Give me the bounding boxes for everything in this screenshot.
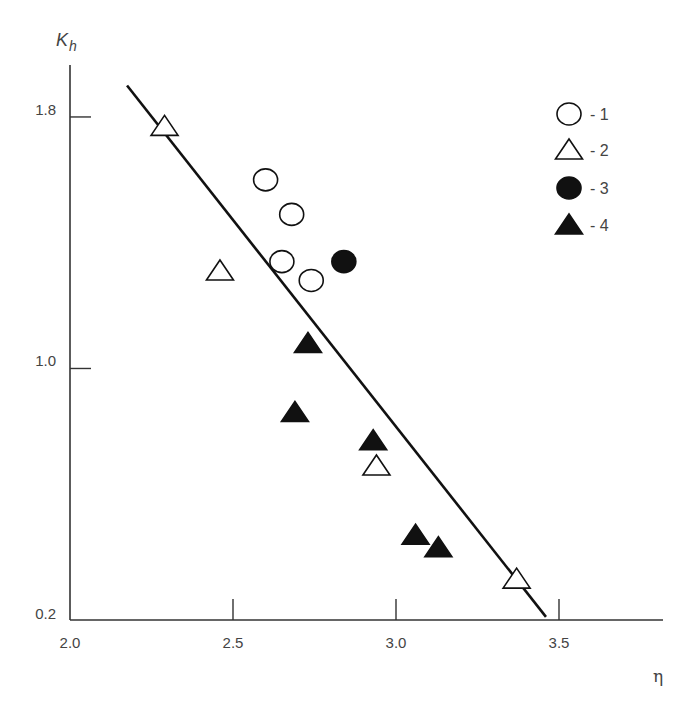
y-tick-label: 1.0 (35, 352, 56, 369)
regression-line (127, 86, 546, 617)
x-tick-label: 3.5 (549, 634, 570, 651)
legend-item-3: - 3 (557, 177, 609, 199)
open-circle-marker (254, 169, 278, 191)
open-circle-marker (280, 203, 304, 225)
series-4 (281, 332, 451, 556)
x-tick-label: 2.0 (60, 634, 81, 651)
legend-label: - 4 (590, 217, 609, 234)
x-tick-label: 2.5 (223, 634, 244, 651)
series-3 (332, 251, 356, 273)
open-triangle-marker (206, 260, 233, 280)
open-circle-marker (270, 251, 294, 273)
filled-triangle-marker (425, 537, 452, 557)
x-axis-title: η (653, 666, 663, 686)
legend-open-circle-icon (557, 103, 581, 125)
legend-open-triangle-icon (556, 139, 583, 159)
legend-label: - 2 (590, 142, 609, 159)
open-triangle-marker (503, 568, 530, 588)
legend-item-4: - 4 (556, 214, 609, 234)
filled-triangle-marker (360, 430, 387, 450)
y-axis-title: K h (56, 30, 77, 54)
legend: - 1- 2- 3- 4 (556, 103, 609, 234)
legend-item-1: - 1 (557, 103, 609, 125)
legend-item-2: - 2 (556, 139, 609, 159)
open-circle-marker (299, 269, 323, 291)
filled-triangle-marker (294, 332, 321, 352)
open-triangle-marker (363, 455, 390, 475)
legend-filled-triangle-icon (556, 214, 583, 234)
legend-label: - 3 (590, 180, 609, 197)
filled-circle-marker (332, 251, 356, 273)
legend-label: - 1 (590, 106, 609, 123)
series-1 (254, 169, 324, 292)
y-tick-label: 1.8 (35, 101, 56, 118)
y-axis-title-subscript: h (69, 38, 77, 54)
fit-line (127, 86, 546, 617)
legend-filled-circle-icon (557, 177, 581, 199)
y-tick-label: 0.2 (35, 605, 56, 622)
y-axis-title-main: K (56, 30, 69, 50)
x-tick-label: 3.0 (386, 634, 407, 651)
filled-triangle-marker (402, 524, 429, 544)
open-triangle-marker (151, 115, 178, 135)
filled-triangle-marker (281, 401, 308, 421)
scatter-chart: K h 2.02.53.03.50.21.01.8 - 1- 2- 3- 4 η (0, 0, 689, 714)
